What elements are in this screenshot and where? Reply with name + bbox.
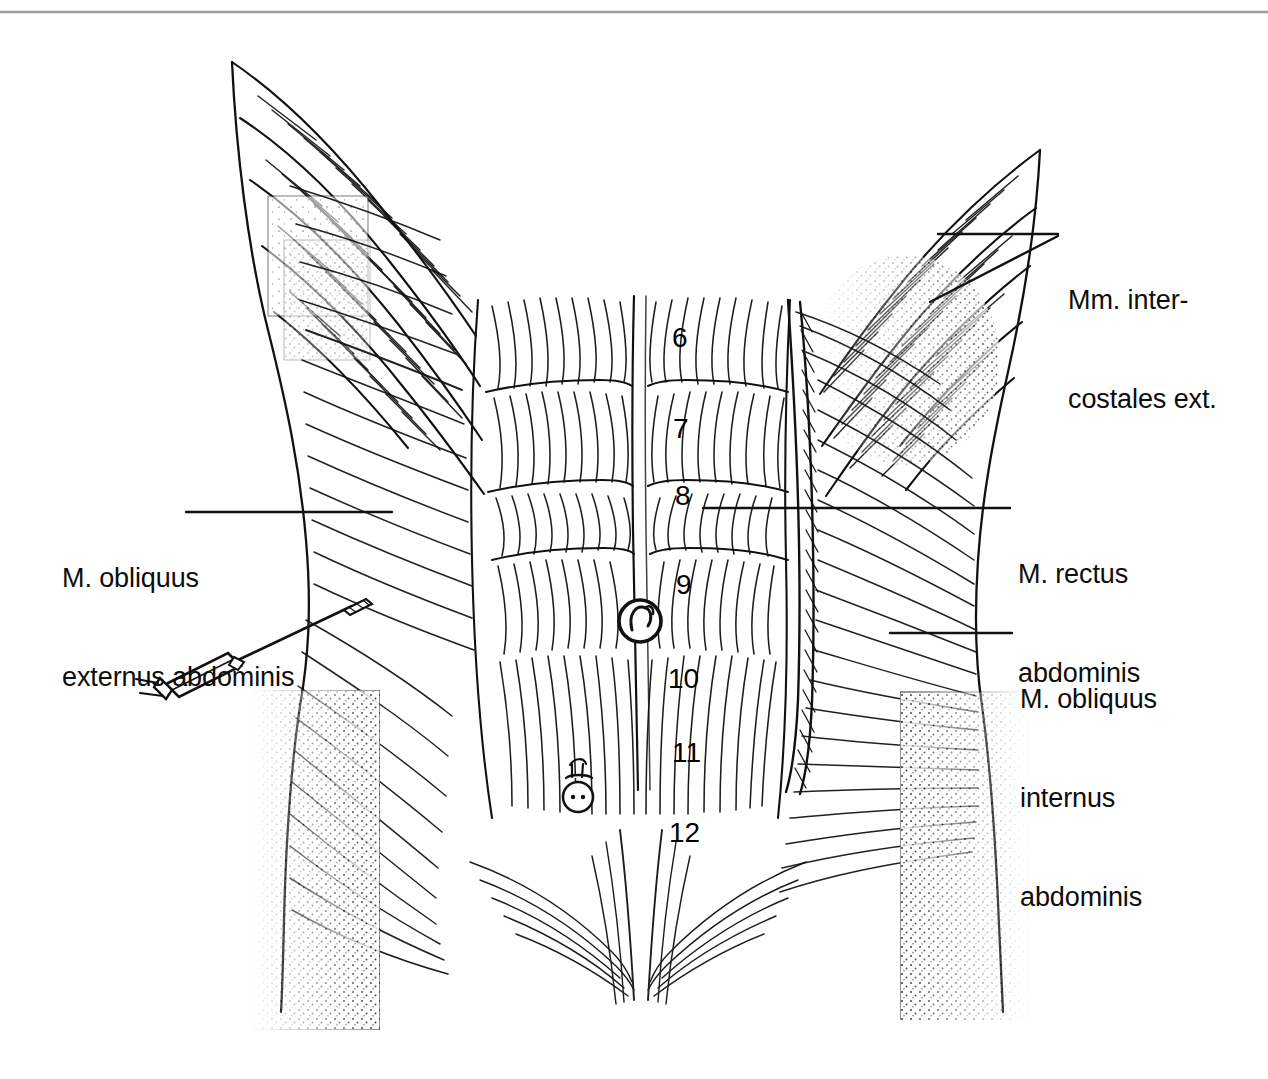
rib-number-11: 11: [672, 739, 701, 767]
label-intercostales-line2: costales ext.: [1068, 383, 1217, 416]
label-obliquus-internus-line3: abdominis: [1020, 881, 1157, 914]
rib-number-7: 7: [673, 415, 689, 443]
vessel-stub-marker: [563, 759, 593, 812]
label-intercostales-ext: Mm. inter- costales ext.: [1068, 218, 1217, 482]
figure-page: Mm. inter- costales ext. M. rectus abdom…: [0, 0, 1268, 1079]
label-obliquus-externus-line2: externus abdominis: [62, 661, 294, 694]
label-obliquus-internus-line2: internus: [1020, 782, 1157, 815]
label-obliquus-internus-line1: M. obliquus: [1020, 683, 1157, 716]
rib-number-6: 6: [672, 324, 688, 352]
label-obliquus-internus: M. obliquus internus abdominis: [1020, 617, 1157, 980]
label-rectus-line1: M. rectus: [1018, 558, 1140, 591]
rib-number-10: 10: [668, 665, 699, 693]
label-obliquus-externus: M. obliquus externus abdominis: [62, 496, 294, 760]
rectus-sheath-cut-edge: [786, 300, 814, 794]
rectus-abdominis: [471, 296, 790, 818]
umbilicus-marker: [619, 600, 661, 642]
rib-number-8: 8: [675, 482, 691, 510]
intercostal-stipple: [810, 250, 1010, 470]
inguinal-convergence: [470, 830, 806, 1004]
rib-number-9: 9: [676, 571, 692, 599]
flank-stipple-right: [900, 692, 1028, 1022]
label-obliquus-externus-line1: M. obliquus: [62, 562, 294, 595]
rib-number-12: 12: [669, 819, 700, 847]
needle-tip: [344, 599, 372, 615]
label-intercostales-line1: Mm. inter-: [1068, 284, 1217, 317]
